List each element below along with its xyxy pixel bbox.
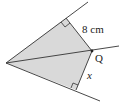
point-q-label: Q xyxy=(95,53,103,64)
diagram-figure xyxy=(0,0,124,105)
point-q xyxy=(91,50,94,53)
shaded-kite xyxy=(6,18,92,90)
angle-bisector-diagram: 8 cm Q x xyxy=(0,0,124,105)
unknown-x-label: x xyxy=(87,70,92,81)
distance-label: 8 cm xyxy=(82,24,104,35)
